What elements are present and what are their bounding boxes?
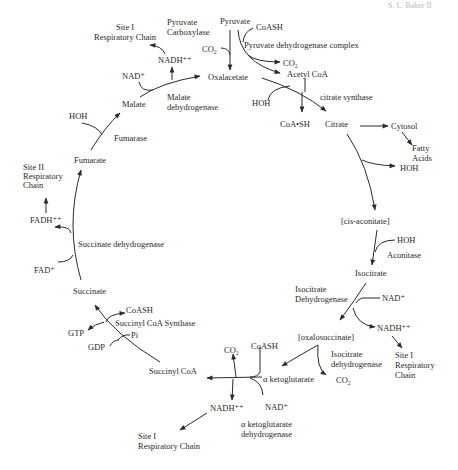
icd-label-1: Isocitrate — [295, 284, 327, 294]
gtp-label: GTP — [68, 328, 84, 338]
hoh-aconitase-label: HOH — [397, 235, 415, 245]
oxalacetate-label: Oxalacetate — [208, 72, 248, 82]
co2-icd-label: CO₂ — [336, 375, 351, 385]
scs-label: Succinyl CoA Synthase — [115, 318, 196, 328]
hoh-cs-label: HOH — [252, 98, 270, 108]
fatty-acids-label-1: Fatty — [412, 143, 430, 153]
pyruvate-carboxylase-label-1: Pyruvate — [167, 17, 197, 27]
acetyl-coa-label: Acetyl CoA — [287, 69, 329, 79]
malate-label: Malate — [122, 99, 146, 109]
page-header: S. L. Baker II — [388, 1, 432, 10]
pyruvate-carboxylase-label-2: Carboxylase — [167, 27, 210, 37]
hoh-citrate-label: HOH — [400, 163, 418, 173]
hoh-fumarase-line — [82, 123, 102, 135]
co2-out-arrow — [248, 55, 280, 62]
nad-icd-line — [356, 298, 380, 303]
nad-icd-label: NAD⁺ — [382, 293, 405, 303]
icd2-label-2: dehydrogenase — [331, 359, 382, 369]
pdh-complex-label: Pyruvate dehydrogenase complex — [244, 40, 359, 50]
cis-aconitate-label: [cis-aconitate] — [341, 216, 390, 226]
fumarate-label: Fumarate — [74, 155, 106, 165]
gdp-line — [110, 340, 119, 346]
nadh-akg-label: NADH⁺⁺ — [210, 403, 244, 413]
fatty-acids-arrow — [402, 132, 412, 145]
nadh-icd-label: NADH⁺⁺ — [377, 323, 411, 333]
nad-akg-line — [250, 378, 263, 395]
oxalosuccinate-label: [oxalosuccinate] — [298, 332, 354, 342]
co2-pc-label: CO₂ — [202, 44, 217, 54]
co2-icd-arrow — [318, 345, 326, 375]
co2-pdh-label: CO₂ — [283, 58, 298, 68]
citrate-to-cis-aconitate-arrow — [347, 134, 375, 210]
fadh-out-arrow — [55, 227, 71, 233]
fadh-label: FADH⁺⁺ — [30, 215, 62, 225]
fad-in-line — [58, 255, 73, 262]
citrate-synthase-arrow — [262, 78, 326, 111]
icd2-label-1: Isocitrate — [331, 349, 363, 359]
succinyl-coa-label: Succinyl CoA — [149, 366, 198, 376]
gdp-label: GDP — [88, 342, 105, 352]
nadh-akg-arrow — [232, 379, 233, 400]
coash-top-label: CoASH — [256, 22, 283, 32]
akg-label: α ketoglutarate — [263, 374, 314, 384]
mdh-label-1: Malate — [167, 92, 191, 102]
sdh-arrow — [73, 170, 81, 280]
nadh-icd-arrow — [353, 308, 375, 327]
site1-icd-label-2: Respiratory — [395, 360, 435, 370]
hoh-in-line — [268, 86, 290, 100]
site1-mdh-label-2: Respiratory Chain — [94, 32, 157, 42]
aconitase-label: Aconitase — [387, 250, 421, 260]
site1-icd-label-3: Chain — [395, 370, 416, 380]
akg-dh-label-1: α ketoglutarate — [241, 419, 292, 429]
site1-mdh-arrow — [150, 45, 165, 54]
oxalosuccinate-to-akg-arrow — [282, 345, 318, 366]
fad-label: FAD⁺ — [34, 265, 55, 275]
isocitrate-label: Isocitrate — [355, 268, 387, 278]
nad-mdh-label: NAD⁺ — [122, 71, 145, 81]
fumarase-label: Fumarase — [114, 133, 147, 143]
krebs-cycle-diagram: S. L. Baker II Pyruvate CoASH Pyruvate d… — [0, 0, 458, 470]
gtp-arrow — [88, 322, 104, 330]
site1-akg-label-1: Site I — [138, 431, 156, 441]
sdh-label: Succinate dehydrogenase — [78, 239, 164, 249]
pi-label: Pi — [131, 330, 139, 340]
fumarase-arrow — [91, 113, 120, 150]
succinate-label: Succinate — [73, 286, 106, 296]
nad-akg-label: NAD⁺ — [265, 402, 288, 412]
site1-icd-arrow — [392, 336, 402, 348]
coash-akg-label: CoASH — [251, 341, 278, 351]
coash-scs-label: CoASH — [126, 305, 153, 315]
fatty-acids-label-2: Acids — [412, 153, 432, 163]
nad-mdh-line — [139, 82, 153, 90]
coa-sh-label: CoA•SH — [280, 119, 310, 129]
co2-akg-arrow — [233, 354, 236, 377]
co2-akg-label: CO₂ — [224, 345, 239, 355]
hoh-fumarase-label: HOH — [69, 111, 87, 121]
cytosol-label: Cytosol — [391, 121, 418, 131]
cycle-svg: S. L. Baker II Pyruvate CoASH Pyruvate d… — [0, 0, 458, 470]
akg-dh-label-2: dehydrogenase — [241, 429, 292, 439]
co2-in-line — [221, 48, 230, 55]
site1-icd-label-1: Site I — [395, 350, 413, 360]
coash-akg-line — [250, 347, 260, 377]
hoh-out-arrow — [362, 160, 395, 166]
aconitase-arrow — [372, 230, 377, 265]
mdh-label-2: dehydrogenase — [167, 102, 218, 112]
citrate-label: Citrate — [325, 119, 348, 129]
site2-label-3: Chain — [23, 180, 44, 190]
site1-akg-label-2: Respiratory Chain — [138, 441, 201, 451]
site1-akg-arrow — [180, 413, 207, 430]
citrate-synthase-label: citrate synthase — [320, 92, 373, 102]
site1-mdh-label-1: Site I — [116, 22, 134, 32]
icd-label-2: Dehydrogenase — [295, 294, 348, 304]
nadh-mdh-label: NADH⁺⁺ — [158, 55, 192, 65]
pyruvate-label: Pyruvate — [220, 16, 250, 26]
pi-line — [118, 335, 130, 340]
